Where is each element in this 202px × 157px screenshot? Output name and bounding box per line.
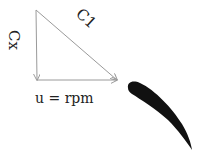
blade-speed-label: u = rpm [35, 90, 94, 106]
c1-label: C1 [72, 5, 100, 32]
cx-vector-arrow [36, 10, 37, 80]
cx-label: Cx [5, 30, 23, 50]
velocity-triangle-diagram: Cx C1 u = rpm [0, 0, 202, 157]
blade-airfoil-shape [128, 82, 192, 150]
